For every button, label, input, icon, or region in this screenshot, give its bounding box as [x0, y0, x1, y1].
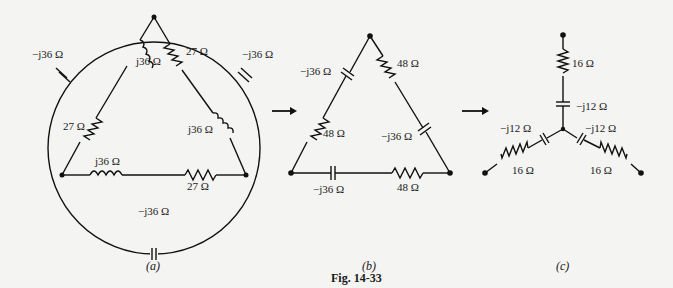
node-dot: [560, 32, 566, 38]
resistor-icon: [164, 44, 182, 66]
node-dot: [244, 173, 249, 178]
resistor-icon: [392, 168, 423, 178]
label-c-cap-t: −j12 Ω: [576, 100, 607, 112]
label-c-cap-l: −j12 Ω: [500, 122, 531, 134]
node-dot: [288, 170, 294, 176]
node-dot: [447, 170, 453, 176]
label-b-res-b: 48 Ω: [397, 181, 419, 193]
label-a-res-l: 27 Ω: [63, 120, 85, 132]
circuit-figure: −j36 Ω j36 Ω 27 Ω −j36 Ω 27 Ω j36 Ω j36 …: [0, 0, 673, 288]
panel-b: −j36 Ω 48 Ω 48 Ω −j36 Ω −j36 Ω 48 Ω (b): [288, 33, 453, 273]
figure-caption: Fig. 14-33: [331, 271, 382, 285]
label-b-cap-r: −j36 Ω: [381, 130, 412, 142]
node-dot: [60, 173, 65, 178]
label-a-cap-ur: −j36 Ω: [242, 48, 273, 60]
node-dot: [367, 33, 373, 39]
panel-c: 16 Ω −j12 Ω −j12 Ω 16 Ω −j12 Ω 16 Ω (c): [482, 32, 644, 273]
resistor-icon: [501, 142, 528, 158]
resistor-icon: [84, 118, 102, 140]
resistor-icon: [377, 56, 395, 78]
outer-circle-wire: [48, 42, 260, 254]
arrow-right-icon: [272, 107, 297, 115]
label-c-res-r: 16 Ω: [590, 164, 612, 176]
resistor-icon: [558, 49, 568, 73]
resistor-icon: [185, 170, 216, 180]
label-b-cap-l: −j36 Ω: [300, 65, 331, 77]
resistor-icon: [600, 142, 627, 158]
capacitor-icon: [238, 68, 252, 82]
capacitor-icon: [556, 102, 570, 106]
label-a-res-r: 27 Ω: [186, 45, 208, 57]
label-a-ind-r: j36 Ω: [187, 123, 213, 135]
label-c-cap-r: −j12 Ω: [585, 122, 616, 134]
label-a-cap-b: −j36 Ω: [138, 205, 169, 217]
label-a-res-b: 27 Ω: [187, 180, 209, 192]
inductor-icon: [213, 113, 233, 133]
capacitor-icon: [331, 166, 335, 180]
label-a-cap-ul: −j36 Ω: [32, 48, 63, 60]
label-b-cap-b: −j36 Ω: [313, 183, 344, 195]
capacitor-icon: [341, 68, 354, 80]
node-dot: [482, 170, 488, 176]
capacitor-icon: [540, 133, 549, 145]
node-dot: [561, 127, 565, 131]
arrow-right-icon: [462, 107, 489, 115]
capacitor-icon: [577, 133, 586, 145]
label-b-res-r: 48 Ω: [397, 57, 419, 69]
panel-a-label: (a): [146, 259, 160, 273]
wire: [140, 17, 154, 40]
label-a-ind-b: j36 Ω: [94, 155, 120, 167]
inductor-icon: [90, 171, 122, 175]
label-b-res-l: 48 Ω: [323, 127, 345, 139]
node-dot: [638, 170, 644, 176]
capacitor-icon: [56, 68, 70, 82]
label-a-ind-l: j36 Ω: [135, 55, 161, 67]
panel-c-label: (c): [556, 259, 569, 273]
node-dot: [152, 15, 157, 20]
panel-a: −j36 Ω j36 Ω 27 Ω −j36 Ω 27 Ω j36 Ω j36 …: [32, 15, 273, 274]
label-c-res-t: 16 Ω: [572, 57, 594, 69]
capacitor-icon: [418, 123, 431, 135]
label-c-res-l: 16 Ω: [512, 164, 534, 176]
